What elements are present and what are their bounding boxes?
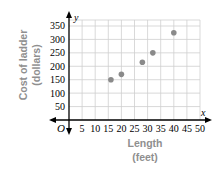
grid [69,20,200,120]
x-tick-label: 50 [195,123,205,134]
y-axis-symbol: y [73,12,79,23]
x-axis-label-line1: Length [110,136,180,150]
data-point [108,77,114,83]
x-tick-label: 15 [103,123,113,134]
tick-labels: yxO5101520253035404550501001502002503003… [50,12,206,134]
x-axis-symbol: x [200,107,206,118]
data-point [140,59,146,65]
x-tick-label: 10 [90,123,100,134]
x-tick-label: 40 [169,123,179,134]
x-tick-label: 35 [156,123,166,134]
x-axis-arrow-icon [205,117,212,123]
x-tick-label: 20 [116,123,126,134]
x-axis-label-line2: (feet) [110,150,180,164]
x-axis-label: Length (feet) [110,136,180,164]
y-axis-arrow-down-icon [66,128,72,135]
y-axis-label-line2: (dollars) [30,30,43,101]
x-tick-label: 25 [130,123,140,134]
axes [49,11,212,135]
x-tick-label: 5 [80,123,85,134]
y-axis-label-line1: Cost of ladder [17,30,30,101]
data-point [119,72,125,78]
data-point [150,50,156,56]
x-tick-label: 30 [143,123,153,134]
data-point [171,30,177,36]
x-tick-label: 45 [182,123,192,134]
y-axis-label: Cost of ladder (dollars) [0,0,60,130]
data-points [108,30,176,83]
y-axis-arrow-icon [66,11,72,18]
